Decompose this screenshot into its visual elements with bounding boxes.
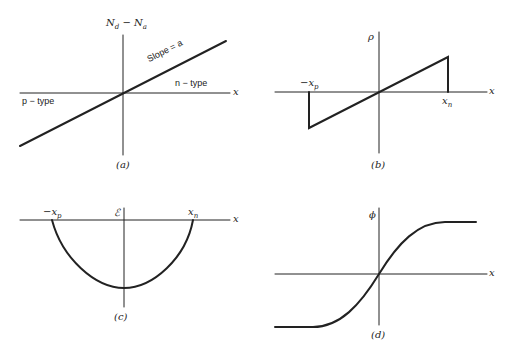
panel-d-y-label: ϕ bbox=[369, 210, 376, 220]
panel-a-y-label: Nd − Na bbox=[106, 18, 147, 31]
y-label-na-sub: a bbox=[143, 23, 147, 31]
y-label-nd: N bbox=[106, 17, 115, 28]
xn-sub: n bbox=[194, 212, 199, 220]
y-label-na: N bbox=[134, 17, 143, 28]
panel-c-right-edge-label: xn bbox=[188, 207, 198, 220]
y-label-minus: − bbox=[119, 17, 134, 28]
panel-a-caption: (a) bbox=[116, 160, 130, 170]
neg-xp-sub: p bbox=[314, 83, 318, 91]
neg-xp-text: −x bbox=[300, 77, 314, 88]
neg-xp-text: −x bbox=[43, 206, 57, 217]
panel-b-caption: (b) bbox=[371, 160, 385, 170]
panel-b-left-edge-label: −xp bbox=[300, 78, 319, 91]
panel-c-x-label: x bbox=[233, 214, 239, 224]
neg-xp-sub: p bbox=[57, 212, 61, 220]
panel-c-caption: (c) bbox=[114, 312, 127, 322]
panel-d-x-label: x bbox=[489, 268, 495, 278]
panel-d-caption: (d) bbox=[371, 330, 385, 340]
panel-c-left-edge-label: −xp bbox=[43, 207, 62, 220]
panel-c-y-label: ℰ bbox=[114, 208, 120, 218]
panel-a-n-type-label: n − type bbox=[175, 79, 207, 88]
panel-b-y-label: ρ bbox=[368, 32, 374, 42]
panel-b-x-label: x bbox=[489, 86, 495, 96]
figure-canvas bbox=[0, 0, 507, 349]
xn-sub: n bbox=[448, 101, 453, 109]
panel-b-right-edge-label: xn bbox=[442, 96, 452, 109]
panel-a-p-type-label: p − type bbox=[22, 97, 54, 106]
panel-a-x-label: x bbox=[233, 87, 239, 97]
panel-c-field-curve bbox=[52, 220, 193, 288]
